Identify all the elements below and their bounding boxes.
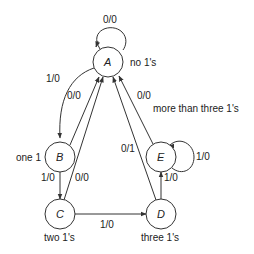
transition-label-C-A: 0/0 bbox=[75, 172, 89, 183]
state-A: A bbox=[93, 47, 123, 77]
transition-label-D-E: 1/0 bbox=[164, 172, 178, 183]
state-B-description: one 1 bbox=[16, 152, 41, 163]
state-E-description: more than three 1's bbox=[153, 103, 239, 114]
transition-A-B bbox=[60, 68, 94, 138]
transition-label-A-B: 1/0 bbox=[46, 73, 60, 84]
transition-label-B-C: 1/0 bbox=[41, 172, 55, 183]
state-A-description: no 1's bbox=[130, 57, 156, 68]
state-C-label: C bbox=[56, 208, 64, 220]
state-C-description: two 1's bbox=[44, 232, 75, 243]
state-B-label: B bbox=[56, 151, 63, 163]
state-D-label: D bbox=[157, 208, 165, 220]
transition-label-E-E: 1/0 bbox=[196, 151, 210, 162]
state-B: B bbox=[45, 142, 75, 172]
state-D-description: three 1's bbox=[141, 232, 179, 243]
state-D: D bbox=[146, 199, 176, 229]
transition-label-A-A: 0/0 bbox=[103, 14, 117, 25]
transition-label-C-D: 1/0 bbox=[100, 219, 114, 230]
transition-label-B-A: 0/0 bbox=[67, 90, 81, 101]
state-E-label: E bbox=[157, 151, 165, 163]
transition-label-E-A: 0/0 bbox=[137, 90, 151, 101]
transition-A-A bbox=[97, 28, 126, 50]
state-E: E bbox=[146, 142, 176, 172]
transition-label-D-A: 0/1 bbox=[121, 143, 135, 154]
state-diagram: 0/0 1/0 0/0 0/0 0/1 0/0 1/0 1/0 1/0 1/0 … bbox=[0, 0, 254, 254]
state-C: C bbox=[45, 199, 75, 229]
state-A-label: A bbox=[103, 56, 111, 68]
